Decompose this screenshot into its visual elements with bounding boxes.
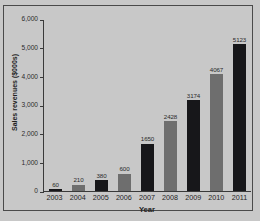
x-tick-label: 2009 xyxy=(182,193,205,202)
bar xyxy=(118,174,131,191)
x-tick-label: 2010 xyxy=(205,193,228,202)
sales-revenue-bar-chart: Sales revenues ($000s) 01,0002,0003,0004… xyxy=(0,0,260,221)
x-axis-ticks: 200320042005200620072008200920102011 xyxy=(43,193,251,202)
bar xyxy=(49,189,62,191)
bar-slot: 380 xyxy=(90,20,113,191)
bar-slot: 60 xyxy=(44,20,67,191)
bar xyxy=(95,180,108,191)
bar-value-label: 380 xyxy=(96,172,106,179)
y-tick-label: 0 xyxy=(34,187,38,194)
bar-slot: 5123 xyxy=(228,20,251,191)
bar-slot: 1650 xyxy=(136,20,159,191)
y-axis-title: Sales revenues ($000s) xyxy=(9,6,21,178)
bar xyxy=(164,121,177,191)
bar-slot: 210 xyxy=(67,20,90,191)
bar xyxy=(72,185,85,191)
x-tick-label: 2008 xyxy=(159,193,182,202)
bar xyxy=(187,100,200,191)
bar-value-label: 600 xyxy=(119,165,129,172)
bar-value-label: 2428 xyxy=(164,113,177,120)
bar-value-label: 4067 xyxy=(210,66,223,73)
x-axis-title: Year xyxy=(43,205,251,214)
y-tick-label: 3,000 xyxy=(21,101,38,108)
chart-frame-border: Sales revenues ($000s) 01,0002,0003,0004… xyxy=(3,5,253,211)
bar-value-label: 3174 xyxy=(187,92,200,99)
y-tick-label: 4,000 xyxy=(21,73,38,80)
bar-value-label: 60 xyxy=(52,181,59,188)
x-tick-label: 2011 xyxy=(228,193,251,202)
bar-value-label: 1650 xyxy=(141,135,154,142)
y-axis-title-label: Sales revenues ($000s) xyxy=(12,53,19,130)
bar-value-label: 5123 xyxy=(233,36,246,43)
bar-slot: 600 xyxy=(113,20,136,191)
bars-layer: 6021038060016502428317440675123 xyxy=(44,20,251,191)
bar xyxy=(210,74,223,191)
x-tick-label: 2006 xyxy=(112,193,135,202)
x-tick-label: 2004 xyxy=(66,193,89,202)
y-tick-label: 5,000 xyxy=(21,44,38,51)
plot-area: 01,0002,0003,0004,0005,0006,000 60210380… xyxy=(43,20,251,192)
bar-slot: 4067 xyxy=(205,20,228,191)
x-tick-label: 2005 xyxy=(89,193,112,202)
bar-slot: 3174 xyxy=(182,20,205,191)
y-tick-label: 2,000 xyxy=(21,130,38,137)
x-tick-label: 2007 xyxy=(135,193,158,202)
bar-slot: 2428 xyxy=(159,20,182,191)
y-tick-label: 1,000 xyxy=(21,159,38,166)
y-tick-label: 6,000 xyxy=(21,15,38,22)
bar xyxy=(141,144,154,191)
bar xyxy=(233,44,246,191)
bar-value-label: 210 xyxy=(73,176,83,183)
x-tick-label: 2003 xyxy=(43,193,66,202)
